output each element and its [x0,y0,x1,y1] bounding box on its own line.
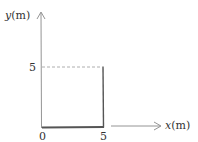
diagram-canvas: y(m) 5 0 5 x(m) [0,0,198,142]
path-bottom-segment [42,127,104,128]
y-tick-5: 5 [29,61,36,74]
y-axis-label: y(m) [4,9,30,22]
y-axis [41,13,42,128]
origin-label: 0 [39,130,46,142]
x-axis-label: x(m) [165,119,190,132]
x-tick-5: 5 [100,130,107,142]
path-right-segment [103,67,104,128]
